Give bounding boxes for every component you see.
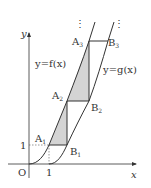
y-axis-label: y: [20, 28, 27, 39]
x-axis-arrow-icon: [132, 162, 137, 166]
continuation-dots-right: ⋮: [114, 18, 124, 29]
point-A3: A3: [71, 36, 83, 48]
label-f: y=f(x): [34, 58, 66, 69]
point-B1: B1: [70, 146, 81, 158]
diagram-canvas: y x O 1 1 y=f(x) y=g(x) A1 B1 A2 B2 A3 B…: [0, 0, 151, 188]
continuation-dots-left: ⋮: [75, 18, 85, 29]
point-B3: B3: [108, 37, 119, 49]
origin-label: O: [18, 167, 26, 178]
point-B2: B2: [91, 102, 102, 114]
x-tick-label: 1: [46, 167, 52, 178]
label-g: y=g(x): [102, 64, 137, 75]
y-axis-arrow-icon: [27, 32, 31, 37]
point-A1: A1: [34, 133, 46, 145]
x-axis-label: x: [131, 169, 137, 180]
y-tick-label: 1: [20, 140, 26, 151]
point-A2: A2: [51, 90, 63, 102]
